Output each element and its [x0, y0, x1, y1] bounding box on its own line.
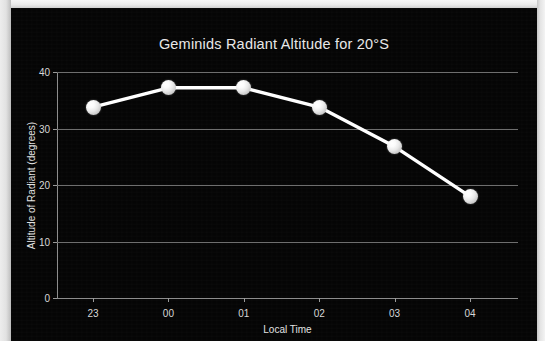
- x-axis-tick-label: 02: [314, 308, 325, 319]
- scan-frame-left-edge: [0, 0, 11, 341]
- x-axis-tick-label: 03: [389, 308, 400, 319]
- chart-canvas: Geminids Radiant Altitude for 20°S Altit…: [11, 8, 537, 341]
- scan-frame-right-edge: [537, 0, 545, 341]
- x-axis-tick-label: 23: [87, 308, 98, 319]
- y-axis-title-label: Altitude of Radiant (degrees): [27, 121, 38, 248]
- series-line: [57, 72, 518, 298]
- y-axis-tick-label: 30: [39, 123, 50, 134]
- x-axis-tick-label: 04: [464, 308, 475, 319]
- x-axis-line: [57, 298, 518, 299]
- y-axis-title: Altitude of Radiant (degrees): [24, 72, 40, 298]
- chart-page: Geminids Radiant Altitude for 20°S Altit…: [0, 0, 545, 341]
- plot-area: 010203040 230001020304: [57, 72, 518, 298]
- x-axis-tick-mark: [319, 298, 320, 302]
- y-axis-tick-label: 20: [39, 180, 50, 191]
- x-axis-title: Local Time: [57, 324, 518, 335]
- data-point-marker: [312, 100, 327, 115]
- chart-title: Geminids Radiant Altitude for 20°S: [11, 36, 537, 52]
- data-point-marker: [463, 189, 478, 204]
- y-axis-tick-mark: [53, 298, 57, 299]
- y-axis-tick-label: 0: [44, 293, 50, 304]
- y-axis-tick-label: 40: [39, 67, 50, 78]
- x-axis-tick-mark: [244, 298, 245, 302]
- scan-frame-top-edge: [0, 0, 545, 8]
- x-axis-tick-mark: [395, 298, 396, 302]
- x-axis-tick-mark: [168, 298, 169, 302]
- data-point-marker: [86, 100, 101, 115]
- x-axis-tick-label: 00: [163, 308, 174, 319]
- x-axis-tick-mark: [470, 298, 471, 302]
- x-axis-tick-label: 01: [238, 308, 249, 319]
- x-axis-tick-mark: [93, 298, 94, 302]
- y-axis-tick-label: 10: [39, 236, 50, 247]
